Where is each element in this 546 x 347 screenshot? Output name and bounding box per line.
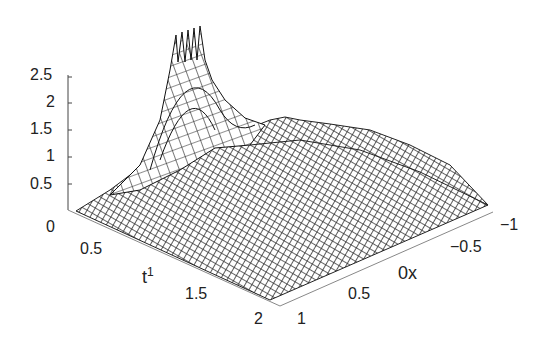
t-tick-1.5: 1.5: [185, 285, 207, 303]
z-tick-0.5: 0.5: [30, 175, 52, 193]
x-tick-neg1: −1: [500, 216, 518, 234]
z-tick-2: 2: [46, 93, 55, 111]
z-tick-0: 0: [46, 218, 55, 236]
z-tick-1.5: 1.5: [30, 120, 52, 138]
surface-base: [76, 122, 488, 300]
z-tick-2.5: 2.5: [30, 66, 52, 84]
z-tick-1: 1: [46, 147, 55, 165]
surface-plot: [0, 0, 546, 347]
t-tick-0.5: 0.5: [80, 240, 102, 258]
x-tick-0.5: 0.5: [348, 285, 370, 303]
x-axis-label: 0x: [398, 263, 417, 284]
z-axis: [68, 75, 72, 210]
x-tick-neg0.5: −0.5: [450, 238, 482, 256]
t-axis-label: t1: [142, 265, 154, 288]
t-tick-2: 2: [254, 310, 263, 328]
x-tick-1: 1: [297, 310, 306, 328]
